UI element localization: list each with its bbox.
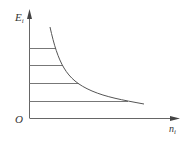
energy-level-diagram: Ei O ni bbox=[0, 0, 194, 146]
origin-label: O bbox=[15, 113, 23, 125]
distribution-curve bbox=[50, 27, 144, 104]
x-axis-label: ni bbox=[169, 123, 176, 136]
x-axis-arrow-icon bbox=[170, 116, 180, 121]
y-axis-arrow-icon bbox=[27, 9, 32, 19]
energy-levels bbox=[30, 49, 129, 102]
y-axis-label: Ei bbox=[14, 11, 24, 25]
